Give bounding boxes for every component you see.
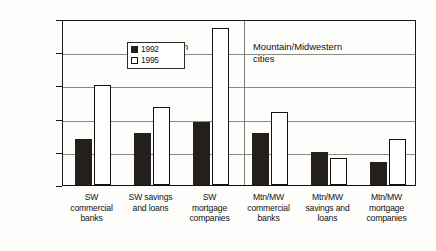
bar-1995 (389, 139, 406, 185)
legend-item-1995: 1995 (131, 55, 182, 66)
group-divider (244, 21, 245, 185)
open-square-icon (131, 57, 138, 64)
bar-1992 (75, 139, 92, 185)
annotation-mountain-line2: cities (253, 53, 342, 65)
gridline (63, 121, 415, 122)
bar-1995 (212, 28, 229, 185)
x-tick-label: Mtn/MWmortgagecompanies (352, 192, 422, 224)
bar-1992 (370, 162, 387, 185)
bar-1995 (271, 112, 288, 185)
chart-legend: 19921995 (127, 42, 185, 69)
annotation-mountain-line1: Mountain/Midwestern (253, 41, 342, 53)
x-tick-label-line: mortgage (352, 203, 422, 214)
legend-label: 1992 (141, 45, 159, 54)
bar-1992 (252, 133, 269, 185)
bar-chart-figure: 050,000100,000150,000200,000250,000 Sout… (0, 0, 436, 251)
bar-1995 (330, 158, 347, 185)
gridline (63, 154, 415, 155)
y-tick-mark (56, 186, 62, 187)
gridline (63, 87, 415, 88)
legend-label: 1995 (141, 56, 159, 65)
plot-area: Southwestern cities Mountain/Midwestern … (62, 20, 416, 186)
bar-1995 (94, 85, 111, 185)
x-tick-label-line: Mtn/MW (352, 192, 422, 203)
filled-square-icon (131, 46, 138, 53)
bar-1992 (311, 152, 328, 185)
annotation-mountain-midwestern: Mountain/Midwestern cities (253, 41, 342, 65)
bar-1992 (134, 133, 151, 185)
bar-1995 (153, 107, 170, 185)
gridline (63, 54, 415, 55)
x-tick-label-line: banks (57, 213, 127, 224)
x-tick-label-line: companies (352, 213, 422, 224)
legend-item-1992: 1992 (131, 44, 182, 55)
bar-1992 (193, 122, 210, 185)
